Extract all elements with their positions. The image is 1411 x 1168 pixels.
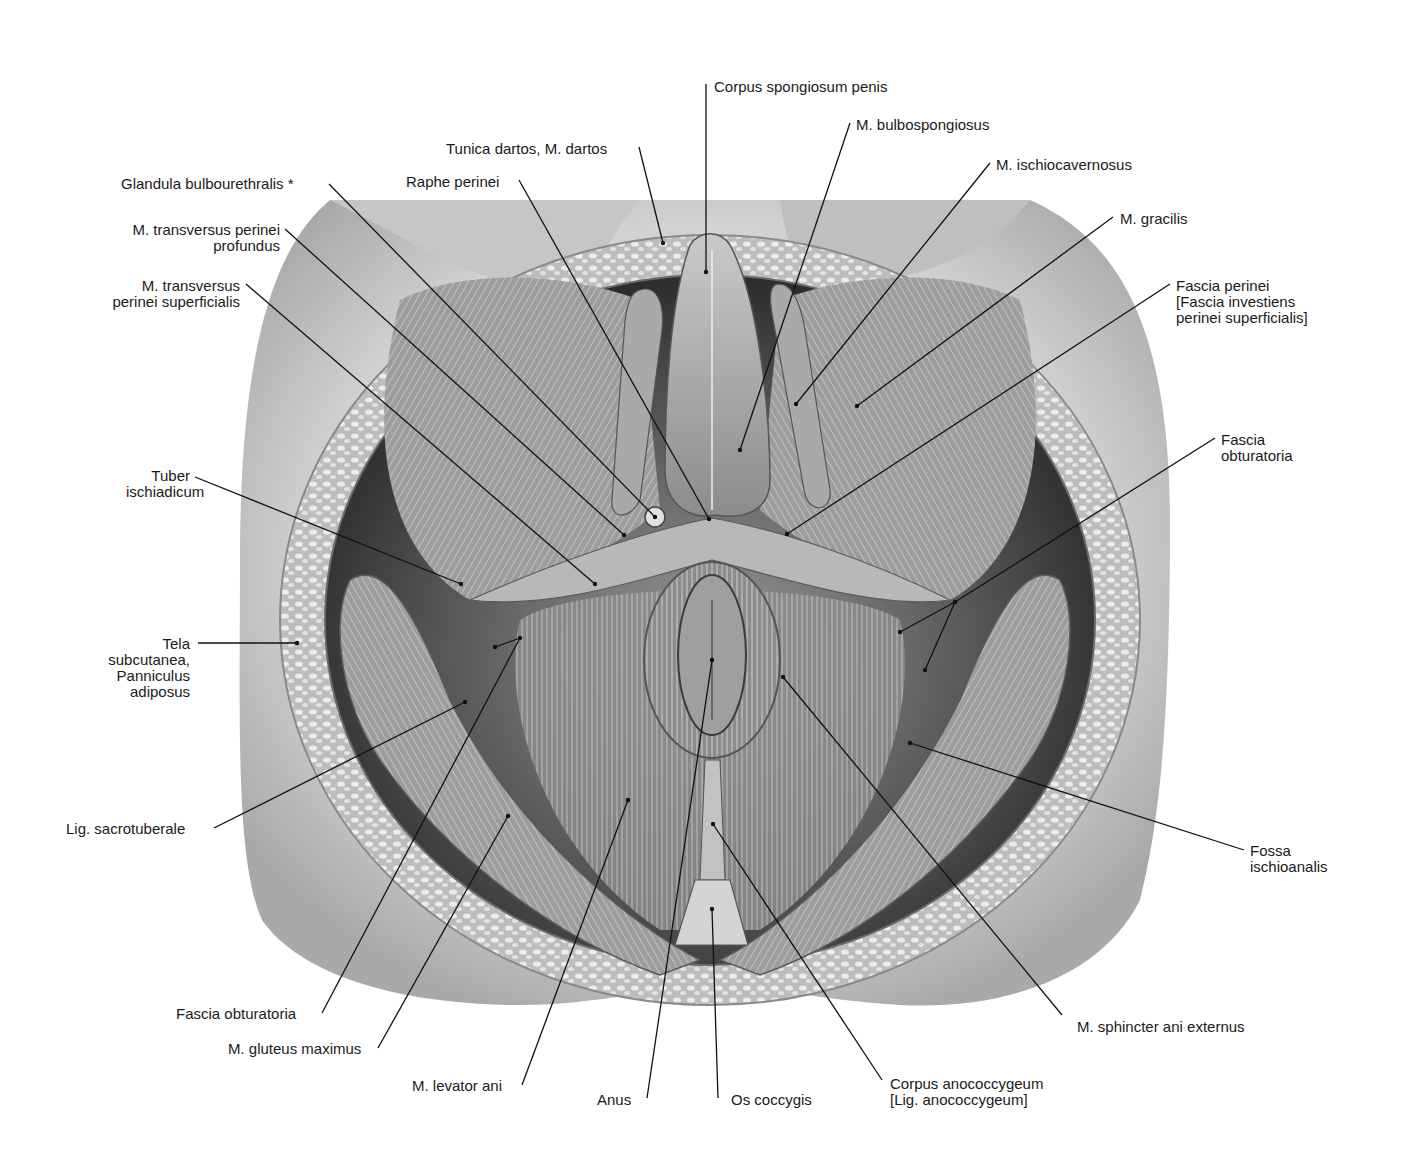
leader-endpoint-dot: [626, 798, 630, 802]
label-glandula-bulbourethralis: Glandula bulbourethralis *: [121, 176, 294, 192]
leader-endpoint-dot: [710, 907, 714, 911]
leader-endpoint-dot: [738, 448, 742, 452]
label-m-transversus-perinei-superficialis: M. transversus perinei superficialis: [92, 278, 240, 310]
label-lig-sacrotuberale: Lig. sacrotuberale: [66, 821, 185, 837]
label-fascia-obturatoria-right: Fascia obturatoria: [1221, 432, 1293, 464]
leader-endpoint-dot: [794, 402, 798, 406]
label-m-gluteus-maximus: M. gluteus maximus: [228, 1041, 361, 1057]
leader-endpoint-dot: [953, 600, 957, 604]
leader-endpoint-dot: [463, 700, 467, 704]
anatomy-figure: Corpus spongiosum penisM. bulbospongiosu…: [0, 0, 1411, 1168]
label-tunica-dartos: Tunica dartos, M. dartos: [446, 141, 607, 157]
label-corpus-anococcygeum: Corpus anococcygeum [Lig. anococcygeum]: [890, 1076, 1043, 1108]
label-m-bulbospongiosus: M. bulbospongiosus: [856, 117, 989, 133]
leader-endpoint-dot: [855, 404, 859, 408]
label-corpus-spongiosum-penis: Corpus spongiosum penis: [714, 79, 887, 95]
label-m-gracilis: M. gracilis: [1120, 211, 1188, 227]
leader-endpoint-dot: [518, 636, 522, 640]
label-m-transversus-perinei-profundus: M. transversus perinei profundus: [110, 222, 280, 254]
leader-endpoint-dot: [707, 517, 711, 521]
label-tuber-ischiadicum: Tuber ischiadicum: [126, 468, 190, 500]
leader-endpoint-dot: [493, 645, 497, 649]
leader-endpoint-dot: [593, 582, 597, 586]
leader-endpoint-dot: [653, 515, 657, 519]
leader-endpoint-dot: [506, 814, 510, 818]
label-m-ischiocavernosus: M. ischiocavernosus: [996, 157, 1132, 173]
leader-endpoint-dot: [711, 822, 715, 826]
label-m-levator-ani: M. levator ani: [412, 1078, 502, 1094]
leader-endpoint-dot: [908, 741, 912, 745]
leader-endpoint-dot: [710, 658, 714, 662]
label-fascia-perinei: Fascia perinei [Fascia investiens perine…: [1176, 278, 1308, 326]
leader-endpoint-dot: [459, 582, 463, 586]
anococcygeal-body: [700, 760, 725, 880]
label-fossa-ischioanalis: Fossa ischioanalis: [1250, 843, 1328, 875]
label-raphe-perinei: Raphe perinei: [406, 174, 499, 190]
leader-endpoint-dot: [704, 270, 708, 274]
leader-endpoint-dot: [785, 532, 789, 536]
label-tela-subcutanea: Tela subcutanea, Panniculus adiposus: [95, 636, 190, 700]
leader-endpoint-dot: [622, 533, 626, 537]
label-anus: Anus: [597, 1092, 631, 1108]
leader-endpoint-dot: [923, 668, 927, 672]
leader-endpoint-dot: [898, 630, 902, 634]
leader-endpoint-dot: [661, 241, 665, 245]
label-m-sphincter-ani-externus: M. sphincter ani externus: [1077, 1019, 1245, 1035]
leader-endpoint-dot: [295, 641, 299, 645]
leader-endpoint-dot: [781, 675, 785, 679]
label-os-coccygis: Os coccygis: [731, 1092, 812, 1108]
label-fascia-obturatoria-left: Fascia obturatoria: [176, 1006, 296, 1022]
